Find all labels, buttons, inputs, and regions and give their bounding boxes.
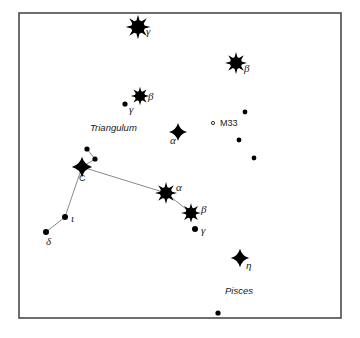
star-field-4	[215, 310, 220, 315]
star-label-psc-delta: δ	[46, 235, 52, 247]
star-core	[135, 91, 145, 101]
chart-border	[19, 13, 341, 318]
sky-map-canvas: γββγαCαβγιδη M33 TriangulumPisces	[0, 0, 360, 338]
star-field-1	[243, 110, 248, 115]
star-glyph-dot	[243, 110, 248, 115]
star-glyph-dot	[62, 214, 68, 220]
star-glyph-dot	[92, 156, 97, 161]
star-label-psc-alpha: α	[176, 181, 182, 193]
star-glyph-dot	[237, 138, 242, 143]
star-psc-c-n1	[84, 146, 89, 151]
star-core	[186, 208, 197, 219]
star-label-psc-c: C	[79, 173, 86, 183]
star-core	[160, 187, 172, 199]
star-label-psc-iota: ι	[71, 212, 74, 224]
star-core	[131, 20, 145, 34]
star-label-tri-beta: β	[147, 90, 154, 102]
star-glyph-dot	[252, 156, 257, 161]
star-field-3	[252, 156, 257, 161]
star-glyph-dot	[122, 101, 127, 106]
star-label-and-gamma: γ	[146, 25, 151, 37]
constellation-label-pisces: Pisces	[225, 285, 253, 296]
star-label-and-beta: β	[243, 62, 250, 74]
star-label-tri-gamma: γ	[129, 103, 134, 115]
star-core	[230, 57, 242, 69]
star-label-psc-beta: β	[200, 203, 207, 215]
constellation-label-triangulum: Triangulum	[90, 122, 137, 133]
star-chart-figure: γββγαCαβγιδη M33 TriangulumPisces	[0, 0, 360, 338]
star-glyph-dot	[192, 226, 198, 232]
star-psc-c-n2	[92, 156, 97, 161]
dso-label-m33: M33	[220, 118, 238, 128]
star-label-psc-gamma: γ	[201, 224, 206, 236]
star-label-psc-eta: η	[246, 259, 251, 271]
star-label-tri-alpha: α	[170, 134, 176, 146]
star-field-2	[237, 138, 242, 143]
star-glyph-dot	[215, 310, 220, 315]
star-glyph-dot	[84, 146, 89, 151]
